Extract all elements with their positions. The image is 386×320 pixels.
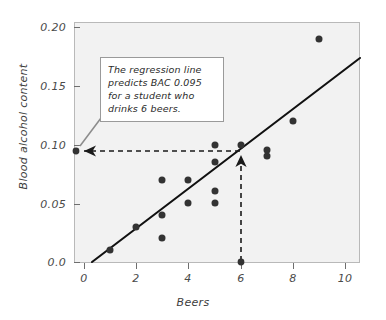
annotation-line-3: for a student who: [108, 89, 216, 102]
annotation-leader-line: [80, 118, 101, 146]
data-point: [264, 147, 271, 154]
data-point: [133, 224, 140, 231]
annotation-line-1: The regression line: [108, 63, 216, 76]
data-point: [238, 142, 245, 149]
data-point: [159, 235, 166, 242]
annotation-line-2: predicts BAC 0.095: [108, 76, 216, 89]
data-point: [159, 212, 166, 219]
data-point: [264, 153, 271, 160]
scatter-plot-figure: 0.20 0.15 0.10 0.05 0.0 0 2 4 6 8 10 Blo…: [0, 0, 386, 320]
plot-overlay: [0, 0, 386, 320]
data-point: [290, 118, 297, 125]
data-point: [212, 200, 219, 207]
data-point: [107, 247, 114, 254]
data-point: [159, 177, 166, 184]
data-point: [316, 36, 323, 43]
data-point: [212, 142, 219, 149]
data-point: [212, 159, 219, 166]
data-point: [185, 177, 192, 184]
annotation-line-4: drinks 6 beers.: [108, 102, 216, 115]
annotation-callout: The regression line predicts BAC 0.095 f…: [100, 57, 224, 122]
data-point: [212, 188, 219, 195]
predicted-bac-axis-marker: [73, 148, 80, 155]
six-beers-axis-marker: [238, 259, 245, 266]
data-point: [185, 200, 192, 207]
